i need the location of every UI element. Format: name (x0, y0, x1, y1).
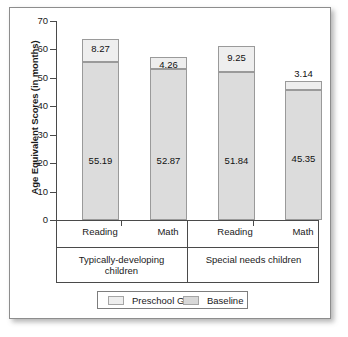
bar-segment-baseline: 45.35 (285, 90, 322, 220)
chart-figure: Age Equivalent Scores (in months) 70 60 … (9, 7, 331, 319)
bar-sn-reading[interactable]: 9.25 51.84 (218, 46, 255, 220)
bar-gain-value: 8.27 (83, 43, 118, 54)
plot-area: 70 60 50 40 30 20 10 0 8.27 55.19 4.26 (56, 21, 319, 221)
y-tick-label-0: 0 (22, 214, 48, 225)
x-tick-sn-inner (253, 221, 254, 226)
y-tick-label-70: 70 (22, 15, 48, 26)
x-tick-td-inner (121, 221, 122, 226)
bar-gain-value: 3.14 (280, 68, 327, 79)
bar-baseline-value: 55.19 (83, 155, 118, 166)
y-tick-label-30: 30 (22, 129, 48, 140)
bar-td-math[interactable]: 4.26 52.87 (150, 57, 187, 220)
legend-swatch-icon (183, 296, 199, 305)
x-axis-sep-right (318, 221, 319, 283)
y-tick-label-60: 60 (22, 43, 48, 54)
y-tick-10 (50, 192, 56, 193)
x-axis-sep-middle (187, 221, 188, 283)
group-label-typically-developing: Typically-developing children (56, 254, 187, 276)
y-tick-label-50: 50 (22, 72, 48, 83)
y-tick-70 (50, 21, 56, 22)
x-axis-row-divider (56, 247, 319, 248)
bar-baseline-value: 45.35 (286, 153, 321, 164)
bar-td-reading[interactable]: 8.27 55.19 (82, 39, 119, 220)
bar-segment-gain: 8.27 (82, 39, 119, 63)
y-tick-label-20: 20 (22, 157, 48, 168)
y-tick-60 (50, 49, 56, 50)
bar-baseline-value: 52.87 (151, 155, 186, 166)
y-tick-30 (50, 135, 56, 136)
y-tick-label-10: 10 (22, 186, 48, 197)
x-axis-categories: Reading Math Reading Math Typically-deve… (56, 221, 319, 283)
group-label-line1: Special needs children (206, 254, 302, 265)
x-axis-bottom-line (56, 282, 319, 283)
bar-segment-baseline: 52.87 (150, 69, 187, 220)
x-label-td-reading: Reading (67, 226, 133, 237)
group-label-special-needs: Special needs children (188, 254, 319, 265)
x-label-sn-math: Math (270, 226, 336, 237)
y-tick-40 (50, 106, 56, 107)
y-axis-line (56, 21, 57, 221)
bar-segment-baseline: 55.19 (82, 62, 119, 220)
legend: Preschool Gain Baseline (97, 291, 248, 309)
bar-gain-value: 9.25 (219, 52, 254, 63)
y-tick-50 (50, 78, 56, 79)
bar-sn-math[interactable]: 3.14 45.35 (285, 81, 322, 220)
bar-segment-gain: 9.25 (218, 46, 255, 72)
group-label-line1: Typically-developing (79, 254, 165, 265)
y-axis-title: Age Equivalent Scores (in months) (29, 28, 40, 208)
x-axis-sep-left (56, 221, 57, 283)
bar-segment-baseline: 51.84 (218, 72, 255, 220)
bar-segment-gain: 4.26 (150, 57, 187, 69)
y-tick-20 (50, 163, 56, 164)
y-tick-label-40: 40 (22, 100, 48, 111)
x-label-sn-reading: Reading (202, 226, 268, 237)
bar-segment-gain: 3.14 (285, 81, 322, 90)
x-label-td-math: Math (135, 226, 201, 237)
group-label-line2: children (105, 265, 138, 276)
bar-baseline-value: 51.84 (219, 155, 254, 166)
legend-swatch-icon (108, 296, 124, 305)
legend-label: Baseline (207, 295, 243, 306)
